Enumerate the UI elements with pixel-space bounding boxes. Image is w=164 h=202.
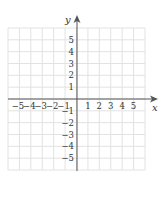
x-tick-label: 2	[97, 101, 102, 111]
y-tick-label: 2	[69, 70, 74, 80]
y-tick-label: 1	[69, 82, 74, 92]
x-tick-label: 5	[131, 101, 136, 111]
y-tick-label: −1	[61, 106, 74, 116]
x-tick-label: 1	[85, 101, 90, 111]
y-tick-label: −3	[61, 130, 74, 140]
y-tick-label: −2	[61, 118, 74, 128]
x-tick-label: 4	[119, 101, 124, 111]
y-tick-label: −4	[61, 141, 74, 151]
y-tick-label: 5	[69, 35, 74, 45]
x-tick-label: 3	[108, 101, 113, 111]
y-tick-label: 3	[69, 59, 74, 69]
coordinate-plane: −5−4−3−2−112345 54321−1−2−3−4−5 x y	[0, 0, 164, 202]
y-tick-label: 4	[69, 47, 74, 57]
y-tick-label: −5	[61, 153, 74, 163]
y-axis-label: y	[64, 14, 71, 25]
x-axis-label: x	[152, 102, 158, 113]
